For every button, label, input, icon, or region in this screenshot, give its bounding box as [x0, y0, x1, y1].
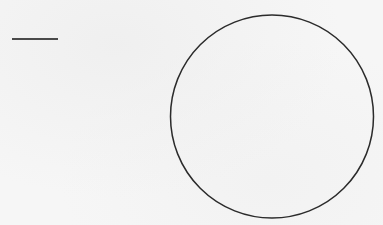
circle-outline [171, 15, 374, 218]
diagram-canvas: horizontal line segment circle outline [0, 0, 383, 225]
diagram-svg [0, 0, 383, 225]
